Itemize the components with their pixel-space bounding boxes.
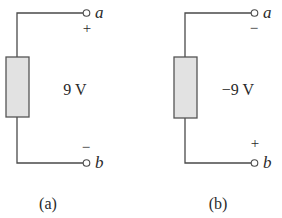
polarity-top: − [250, 20, 258, 36]
panel-b: a b − + −9 V (b) [174, 3, 272, 213]
terminal-b-label: b [95, 153, 104, 172]
terminal-b [251, 160, 258, 167]
wire-b [17, 117, 83, 163]
circuit-diagram: a b + − 9 V (a) a b − + −9 V (b) [0, 0, 282, 218]
wire-b [185, 118, 251, 163]
polarity-bottom: − [82, 139, 90, 155]
terminal-a-label: a [263, 3, 272, 22]
panel-a: a b + − 9 V (a) [6, 3, 104, 213]
panel-caption: (b) [209, 195, 228, 213]
circuit-element [174, 57, 197, 118]
wire-a [17, 13, 83, 57]
voltage-label: −9 V [222, 81, 255, 98]
panel-caption: (a) [39, 195, 57, 213]
terminal-b-label: b [263, 153, 272, 172]
wire-a [185, 13, 251, 57]
polarity-bottom: + [251, 135, 259, 151]
terminal-a-label: a [95, 3, 104, 22]
circuit-element [6, 57, 29, 117]
voltage-label: 9 V [63, 81, 87, 98]
terminal-b [83, 160, 90, 167]
terminal-a [83, 10, 90, 17]
polarity-top: + [83, 20, 91, 36]
terminal-a [251, 10, 258, 17]
